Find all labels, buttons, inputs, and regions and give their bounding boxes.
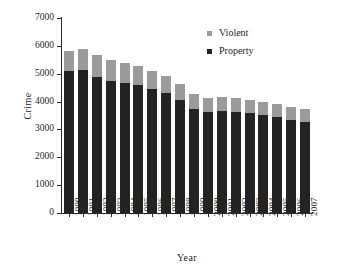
x-tick-mark <box>138 214 139 217</box>
y-tick-mark <box>57 46 61 47</box>
bar-segment-violent <box>147 71 157 89</box>
bar-segment-property <box>147 89 157 213</box>
y-tick-label: 6000 <box>0 41 54 51</box>
bar-segment-violent <box>106 60 116 81</box>
x-tick-label-1992: 1992 <box>101 197 111 216</box>
bar-segment-property <box>92 77 102 214</box>
y-tick-mark <box>57 74 61 75</box>
x-tick-mark <box>263 214 264 217</box>
x-tick-mark <box>305 214 306 217</box>
x-tick-label-2007: 2007 <box>309 197 319 216</box>
legend-swatch-violent-icon <box>207 31 212 36</box>
x-tick-label-2004: 2004 <box>267 197 277 216</box>
x-tick-mark <box>166 214 167 217</box>
x-tick-label-2006: 2006 <box>295 197 305 216</box>
bar-1997 <box>161 76 171 213</box>
x-tick-label-1990: 1990 <box>73 197 83 216</box>
bar-segment-property <box>120 83 130 213</box>
bar-segment-violent <box>189 94 199 108</box>
x-tick-mark <box>180 214 181 217</box>
bar-segment-property <box>106 81 116 213</box>
x-tick-mark <box>236 214 237 217</box>
x-tick-label-1996: 1996 <box>156 197 166 216</box>
bar-1993 <box>106 60 116 213</box>
y-tick-mark <box>57 213 61 214</box>
y-tick-mark <box>57 185 61 186</box>
x-tick-mark <box>291 214 292 217</box>
bar-segment-violent <box>203 98 213 112</box>
y-tick-label: 3000 <box>0 124 54 134</box>
bar-segment-violent <box>272 104 282 117</box>
bar-segment-violent <box>300 109 310 122</box>
y-tick-label: 2000 <box>0 152 54 162</box>
bar-segment-violent <box>175 84 185 100</box>
x-tick-label-2001: 2001 <box>226 197 236 216</box>
bar-segment-violent <box>78 49 88 70</box>
bar-segment-violent <box>92 55 102 76</box>
bar-segment-violent <box>245 100 255 113</box>
y-tick-mark <box>57 157 61 158</box>
chart-legend: Violent Property <box>207 27 253 63</box>
bar-segment-property <box>161 93 171 213</box>
bar-2000 <box>203 98 213 213</box>
bar-segment-violent <box>161 76 171 93</box>
legend-label-property: Property <box>219 46 253 56</box>
x-tick-label-2002: 2002 <box>240 197 250 216</box>
x-tick-mark <box>152 214 153 217</box>
bar-segment-violent <box>286 107 296 120</box>
x-tick-mark <box>97 214 98 217</box>
x-tick-label-1991: 1991 <box>87 197 97 216</box>
y-tick-label: 7000 <box>0 13 54 23</box>
x-tick-label-1994: 1994 <box>129 197 139 216</box>
bar-1996 <box>147 71 157 213</box>
y-tick-label: 1000 <box>0 180 54 190</box>
bar-1999 <box>189 94 199 213</box>
bar-segment-property <box>64 71 74 213</box>
bar-segment-violent <box>120 63 130 83</box>
y-tick-label: 4000 <box>0 97 54 107</box>
bar-1995 <box>133 66 143 213</box>
x-tick-label-2003: 2003 <box>254 197 264 216</box>
legend-swatch-property-icon <box>207 49 212 54</box>
x-tick-mark <box>83 214 84 217</box>
x-tick-label-1995: 1995 <box>142 197 152 216</box>
legend-item-violent: Violent <box>207 27 253 39</box>
y-tick-label: 0 <box>0 208 54 218</box>
x-tick-label-1999: 1999 <box>198 197 208 216</box>
bar-segment-violent <box>231 98 241 112</box>
x-tick-mark <box>222 214 223 217</box>
legend-item-property: Property <box>207 45 253 57</box>
plot-area <box>62 18 312 213</box>
legend-label-violent: Violent <box>219 28 248 38</box>
x-tick-label-2000: 2000 <box>212 197 222 216</box>
x-tick-label-1997: 1997 <box>170 197 180 216</box>
bar-segment-property <box>133 85 143 213</box>
y-tick-label: 5000 <box>0 69 54 79</box>
bar-2003 <box>245 100 255 213</box>
bar-segment-violent <box>64 51 74 71</box>
x-tick-label-1993: 1993 <box>115 197 125 216</box>
bar-1992 <box>92 55 102 213</box>
x-tick-mark <box>277 214 278 217</box>
x-tick-label-1998: 1998 <box>184 197 194 216</box>
crime-bar-chart: Crime 01000200030004000500060007000 1990… <box>0 0 338 272</box>
x-tick-mark <box>111 214 112 217</box>
x-tick-mark <box>208 214 209 217</box>
bar-segment-violent <box>217 97 227 111</box>
bar-2001 <box>217 97 227 213</box>
x-tick-mark <box>69 214 70 217</box>
bar-1990 <box>64 51 74 213</box>
bar-segment-violent <box>258 102 268 115</box>
bar-segment-property <box>78 70 88 213</box>
x-tick-mark <box>194 214 195 217</box>
x-tick-label-2005: 2005 <box>281 197 291 216</box>
x-tick-mark <box>125 214 126 217</box>
bar-1991 <box>78 49 88 213</box>
y-tick-mark <box>57 18 61 19</box>
bar-1994 <box>120 63 130 213</box>
bar-2002 <box>231 98 241 213</box>
x-axis-label: Year <box>62 252 312 263</box>
y-tick-mark <box>57 129 61 130</box>
x-tick-mark <box>250 214 251 217</box>
y-tick-mark <box>57 102 61 103</box>
